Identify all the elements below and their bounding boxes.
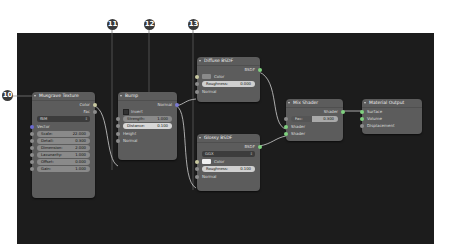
glossy-roughness-field[interactable]: Roughness:0.100 [202,166,255,172]
collapse-icon[interactable] [364,102,366,104]
output-bsdf: BSDF [197,66,260,73]
diffuse-color-input[interactable]: Color [197,73,260,80]
socket-out-normal[interactable] [175,103,179,107]
distance-field[interactable]: Distance:0.100 [123,123,172,129]
socket-in-shader[interactable] [284,125,288,129]
output-color: Color [32,101,95,108]
dropdown-arrow-icon: ⇕ [85,116,88,122]
output-normal: Normal [118,101,177,108]
diffuse-normal-input: Normal [197,88,260,95]
node-header[interactable]: Musgrave Texture [32,92,95,101]
scale-field[interactable]: Scale:22.000 [37,131,90,137]
musgrave-texture-node[interactable]: Musgrave Texture Color Fac fBM⇕ Vector S… [32,92,95,198]
socket-in-normal[interactable] [195,90,199,94]
callout-12: 12 [144,19,155,30]
node-header[interactable]: Glossy BSDF [197,134,260,143]
output-displacement-input: Displacement [362,122,422,129]
node-title: Mix Shader [293,100,318,105]
gain-field[interactable]: Gain:1.000 [37,166,90,172]
input-vector: Vector [32,123,95,130]
socket-out-fac[interactable] [93,110,97,114]
node-title: Diffuse BSDF [204,58,233,63]
socket-in-surface[interactable] [360,110,364,114]
node-header[interactable]: Mix Shader [286,99,343,108]
socket-out-shader[interactable] [341,110,345,114]
output-surface-input: Surface [362,108,422,115]
material-output-node[interactable]: Material Output Surface Volume Displacem… [362,99,422,134]
glossy-bsdf-node[interactable]: Glossy BSDF BSDF GGX⇕ Color Roughness:0.… [197,134,260,191]
dimension-field[interactable]: Dimension:2.000 [37,145,90,151]
mix-shader-input-2: Shader [286,130,343,137]
musgrave-type-dropdown[interactable]: fBM⇕ [37,116,90,122]
strength-field[interactable]: Strength:1.000 [123,116,172,122]
glossy-color-input[interactable]: Color [197,158,260,165]
socket-in-volume[interactable] [360,117,364,121]
distribution-dropdown[interactable]: GGX⇕ [202,151,255,157]
invert-checkbox[interactable]: Invert [118,108,177,115]
output-bsdf: BSDF [197,143,260,150]
callout-10: 10 [2,90,13,101]
mix-shader-node[interactable]: Mix Shader Shader Fac:0.300 Shader Shade… [286,99,343,141]
output-shader: Shader [286,108,343,115]
socket-in-shader[interactable] [284,132,288,136]
socket-out-color[interactable] [93,103,97,107]
collapse-icon[interactable] [288,102,290,104]
node-title: Bump [125,93,138,98]
collapse-icon[interactable] [199,137,201,139]
output-fac: Fac [32,108,95,115]
diffuse-bsdf-node[interactable]: Diffuse BSDF BSDF Color Roughness:0.000 … [197,57,260,102]
diffuse-roughness-field[interactable]: Roughness:0.000 [202,81,255,87]
socket-in-color[interactable] [195,160,199,164]
detail-field[interactable]: Detail:0.300 [37,138,90,144]
socket-in-displacement[interactable] [360,124,364,128]
output-volume-input: Volume [362,115,422,122]
socket-in-color[interactable] [195,75,199,79]
color-swatch[interactable] [202,159,211,164]
socket-in-normal[interactable] [195,175,199,179]
lacunarity-field[interactable]: Lacunarity:1.000 [37,152,90,158]
socket-out-bsdf[interactable] [258,145,262,149]
bump-height-input: Height [118,130,177,137]
mix-shader-input-1: Shader [286,123,343,130]
callout-13: 13 [188,19,199,30]
checkbox-icon[interactable] [123,109,129,115]
collapse-icon[interactable] [199,60,201,62]
bump-normal-input: Normal [118,137,177,144]
fac-slider[interactable]: Fac:0.300 [291,116,338,122]
socket-in-height[interactable] [116,132,120,136]
socket-out-bsdf[interactable] [258,68,262,72]
node-title: Glossy BSDF [204,135,232,140]
node-header[interactable]: Diffuse BSDF [197,57,260,66]
node-header[interactable]: Material Output [362,99,422,108]
node-header[interactable]: Bump [118,92,177,101]
node-title: Musgrave Texture [39,93,79,98]
bump-node[interactable]: Bump Normal Invert Strength:1.000 Distan… [118,92,177,160]
collapse-icon[interactable] [120,95,122,97]
socket-in-vector[interactable] [30,125,34,129]
glossy-normal-input: Normal [197,173,260,180]
offset-field[interactable]: Offset:0.000 [37,159,90,165]
callout-11: 11 [107,19,118,30]
dropdown-arrow-icon: ⇕ [250,151,253,157]
color-swatch[interactable] [202,74,211,79]
collapse-icon[interactable] [34,95,36,97]
socket-in-normal[interactable] [116,139,120,143]
node-title: Material Output [369,100,404,105]
